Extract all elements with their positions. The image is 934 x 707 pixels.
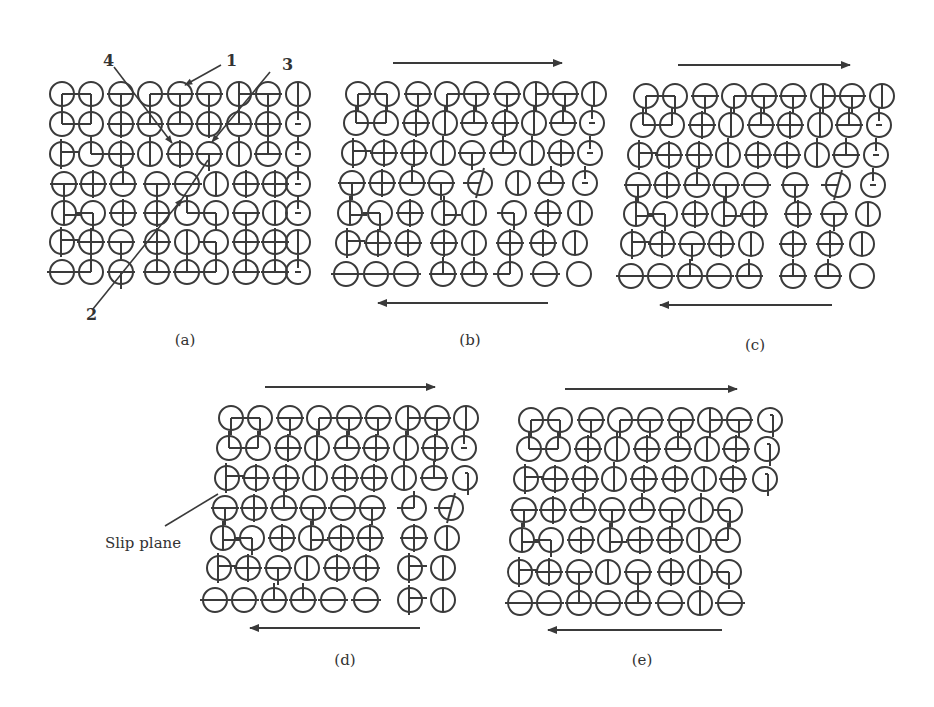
atom-circle xyxy=(254,110,282,138)
atom-circle xyxy=(711,523,740,552)
atom-circle xyxy=(427,171,455,200)
marker-label-1: 1 xyxy=(226,51,237,70)
atom-circle xyxy=(286,167,310,196)
atom-row xyxy=(616,259,874,288)
atom-circle xyxy=(268,524,296,552)
atom-row xyxy=(621,229,874,261)
atom-circle xyxy=(506,171,530,195)
atom-circle xyxy=(850,264,874,288)
atom-circle xyxy=(370,139,398,167)
atom-circle xyxy=(624,173,652,202)
atom-circle xyxy=(631,108,660,137)
atom-row xyxy=(219,406,478,435)
atom-circle xyxy=(695,437,719,461)
atom-circle xyxy=(658,498,686,527)
atom-circle xyxy=(628,140,657,170)
atom-circle xyxy=(166,82,194,111)
atom-circle xyxy=(530,262,560,286)
atom-circle xyxy=(272,464,300,492)
atom-circle xyxy=(305,431,329,460)
atom-circle xyxy=(199,201,228,230)
atom-circle xyxy=(491,109,519,137)
atom-circle xyxy=(338,196,367,225)
atom-circle xyxy=(420,461,448,490)
atom-circle xyxy=(598,523,627,552)
atom-circle xyxy=(722,435,750,463)
atom-circle xyxy=(529,229,557,257)
atom-circle xyxy=(753,467,777,496)
atom-circle xyxy=(856,202,880,226)
panel-b: (b) xyxy=(331,63,606,349)
atom-circle xyxy=(452,431,476,460)
atom-circle xyxy=(571,465,599,493)
atom-circle xyxy=(598,498,626,527)
panel-caption-c: (c) xyxy=(745,336,765,354)
atom-circle xyxy=(74,255,103,284)
atom-circle xyxy=(431,556,455,580)
atom-circle xyxy=(735,259,763,288)
panel-caption-b: (b) xyxy=(459,331,480,349)
atom-circle xyxy=(688,586,712,615)
atom-row xyxy=(510,493,742,527)
panel-a: 1234(a) xyxy=(47,51,310,349)
atom-circle xyxy=(50,227,79,257)
atom-circle xyxy=(655,108,684,137)
atom-circle xyxy=(240,494,268,522)
atom-circle xyxy=(574,435,602,463)
atom-circle xyxy=(624,560,652,589)
atom-circle xyxy=(655,141,683,169)
leader-line xyxy=(185,65,221,85)
atom-circle xyxy=(331,464,359,492)
atom-circle xyxy=(537,166,565,195)
atom-circle xyxy=(549,106,577,135)
atom-circle xyxy=(567,262,591,286)
atom-circle xyxy=(261,170,289,198)
atom-circle xyxy=(431,136,455,165)
marker-label-4: 4 xyxy=(103,51,114,70)
atom-circle xyxy=(725,408,753,437)
atom-circle xyxy=(497,201,526,230)
atom-circle xyxy=(77,228,105,256)
atom-row xyxy=(336,228,587,258)
atom-circle xyxy=(396,406,423,435)
atom-circle xyxy=(263,201,287,225)
atom-circle xyxy=(621,229,650,259)
atom-circle xyxy=(805,138,829,167)
atom-circle xyxy=(505,591,535,615)
atom-circle xyxy=(522,106,546,135)
atom-row xyxy=(211,491,463,525)
atom-circle xyxy=(394,229,422,257)
slip-plane-label: Slip plane xyxy=(105,534,181,552)
atom-circle xyxy=(369,106,398,135)
atom-circle xyxy=(715,591,745,615)
atom-circle xyxy=(402,109,430,137)
atom-row xyxy=(50,167,310,201)
atom-circle xyxy=(107,82,135,111)
atom-circle xyxy=(779,84,807,113)
atom-circle xyxy=(166,140,194,168)
atom-circle xyxy=(342,138,371,168)
atom-circle xyxy=(421,434,449,462)
atom-circle xyxy=(323,554,351,582)
atom-circle xyxy=(514,464,543,494)
atom-circle xyxy=(398,553,427,583)
atom-circle xyxy=(779,230,807,258)
panel-d: Slip plane(d) xyxy=(105,387,478,669)
atom-row xyxy=(624,168,885,202)
panels-group: 1234(a)(b)(c)Slip plane(d)(e) xyxy=(47,51,894,669)
atom-circle xyxy=(295,556,319,580)
atom-circle xyxy=(299,521,328,550)
atom-circle xyxy=(397,491,426,520)
atom-circle xyxy=(107,140,135,168)
atom-circle xyxy=(338,171,366,200)
atom-circle xyxy=(398,166,426,195)
atom-circle xyxy=(458,141,486,170)
atom-circle xyxy=(630,465,658,493)
atom-circle xyxy=(534,591,564,615)
leader-line xyxy=(165,494,218,526)
atom-circle xyxy=(50,82,79,111)
atom-circle xyxy=(861,168,885,197)
atom-circle xyxy=(333,431,361,460)
atom-circle xyxy=(719,108,743,137)
atom-circle xyxy=(462,201,486,225)
